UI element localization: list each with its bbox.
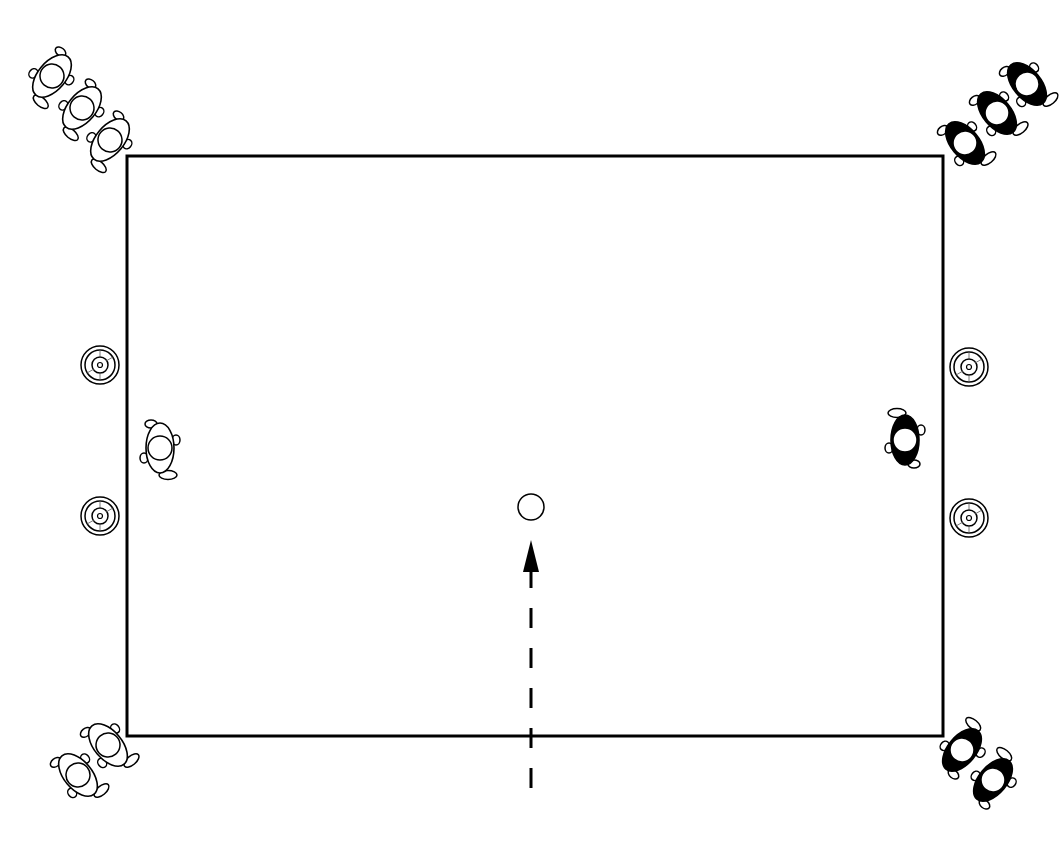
player-white-icon bbox=[140, 420, 180, 480]
target-cone-icon bbox=[950, 499, 988, 537]
target-cone-icon bbox=[81, 346, 119, 384]
ball bbox=[518, 494, 544, 520]
player-black-icon bbox=[885, 409, 925, 469]
target-cone-icon bbox=[81, 497, 119, 535]
drill-diagram bbox=[0, 0, 1063, 841]
target-cone-icon bbox=[950, 348, 988, 386]
field-boundary bbox=[127, 156, 943, 736]
dashed-arrow-icon bbox=[523, 540, 539, 788]
